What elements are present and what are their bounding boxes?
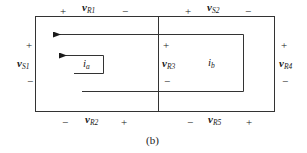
vS1-label: vS1 — [17, 58, 29, 72]
vR2-plus: + — [121, 117, 127, 128]
vR3-plus: + — [163, 40, 169, 51]
vR5-minus: − — [187, 117, 193, 128]
vR5-plus: + — [246, 117, 252, 128]
ib-label: ib — [208, 57, 215, 71]
figure-caption: (b) — [146, 135, 159, 146]
vR3-label: vR3 — [162, 58, 175, 72]
vS2-label: vS2 — [207, 2, 219, 16]
vR4-plus: + — [281, 40, 287, 51]
vS1-plus: + — [26, 40, 32, 51]
vR4-label: vR4 — [279, 58, 292, 72]
vR2-label: vR2 — [85, 114, 98, 128]
vR1-plus: + — [60, 6, 66, 17]
vR5-label: vR5 — [208, 114, 221, 128]
vR1-minus: − — [122, 6, 128, 17]
vR2-minus: − — [62, 117, 68, 128]
ia-label: ia — [83, 58, 90, 72]
vS2-plus: + — [185, 6, 191, 17]
outer-loop-wire — [36, 17, 275, 112]
vR3-minus: − — [164, 76, 170, 87]
vS1-minus: − — [27, 76, 33, 87]
vS2-minus: − — [245, 6, 251, 17]
vR4-minus: − — [282, 76, 288, 87]
circuit-diagram — [0, 0, 307, 153]
vR1-label: vR1 — [82, 2, 95, 16]
